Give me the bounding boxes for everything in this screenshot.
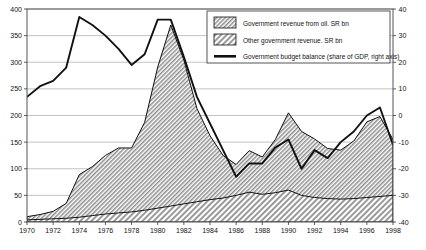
legend-label-oil-revenue: Government revenue from oil. SR bn bbox=[243, 20, 349, 27]
x-tick-1982: 1982 bbox=[176, 227, 192, 234]
x-tick-1978: 1978 bbox=[124, 227, 140, 234]
x-tick-1986: 1986 bbox=[228, 227, 244, 234]
left-tick-150: 150 bbox=[10, 139, 22, 146]
right-tick-0: 0 bbox=[399, 112, 403, 119]
x-tick-1984: 1984 bbox=[202, 227, 218, 234]
right-tick--10: -10 bbox=[399, 139, 409, 146]
x-tick-1990: 1990 bbox=[281, 227, 297, 234]
legend-swatch-budget-balance bbox=[214, 55, 236, 58]
left-tick-0: 0 bbox=[18, 219, 22, 226]
x-tick-1994: 1994 bbox=[333, 227, 349, 234]
legend-label-budget-balance: Government budget balance (share of GDP,… bbox=[243, 53, 399, 61]
legend-swatch-oil-revenue bbox=[214, 17, 236, 28]
right-tick-20: 20 bbox=[399, 59, 407, 66]
legend-swatch-other-revenue bbox=[214, 34, 236, 45]
x-tick-1976: 1976 bbox=[98, 227, 114, 234]
left-tick-300: 300 bbox=[10, 59, 22, 66]
x-tick-1988: 1988 bbox=[254, 227, 270, 234]
left-axis: 050100150200250300350400 bbox=[10, 6, 27, 226]
x-tick-1998: 1998 bbox=[385, 227, 401, 234]
figure-container: 050100150200250300350400 -40-30-20-10010… bbox=[0, 0, 426, 250]
x-axis: 1970197219741976197819801982198419861988… bbox=[19, 222, 401, 234]
x-tick-1992: 1992 bbox=[307, 227, 323, 234]
x-tick-1974: 1974 bbox=[71, 227, 87, 234]
left-tick-350: 350 bbox=[10, 32, 22, 39]
chart-legend: Government revenue from oil. SR bn Other… bbox=[207, 11, 399, 63]
left-tick-200: 200 bbox=[10, 112, 22, 119]
left-tick-50: 50 bbox=[14, 192, 22, 199]
x-tick-1972: 1972 bbox=[45, 227, 61, 234]
right-tick-30: 30 bbox=[399, 32, 407, 39]
revenue-budget-chart: 050100150200250300350400 -40-30-20-10010… bbox=[0, 0, 426, 250]
figure-caption bbox=[2, 239, 422, 250]
legend-label-other-revenue: Other government revenue. SR bn bbox=[243, 37, 343, 45]
right-tick--30: -30 bbox=[399, 192, 409, 199]
x-tick-1970: 1970 bbox=[19, 227, 35, 234]
x-tick-1996: 1996 bbox=[359, 227, 375, 234]
right-tick-40: 40 bbox=[399, 6, 407, 13]
left-tick-100: 100 bbox=[10, 165, 22, 172]
left-tick-250: 250 bbox=[10, 85, 22, 92]
x-tick-1980: 1980 bbox=[150, 227, 166, 234]
left-tick-400: 400 bbox=[10, 6, 22, 13]
right-tick--20: -20 bbox=[399, 165, 409, 172]
right-tick-10: 10 bbox=[399, 85, 407, 92]
right-axis: -40-30-20-10010203040 bbox=[393, 6, 409, 226]
right-tick--40: -40 bbox=[399, 219, 409, 226]
